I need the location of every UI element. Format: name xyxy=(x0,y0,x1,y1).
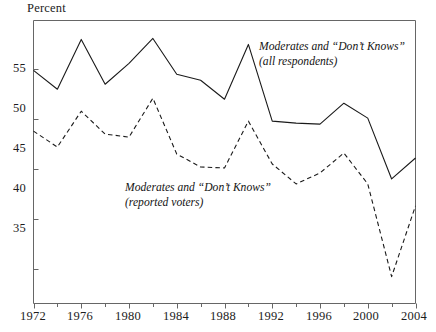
x-tick-label-1992: 1992 xyxy=(251,309,291,324)
x-tick-label-1988: 1988 xyxy=(203,309,243,324)
y-axis-title: Percent xyxy=(27,1,66,16)
x-tick-label-1976: 1976 xyxy=(60,309,100,324)
y-axis-ticks xyxy=(34,70,39,270)
x-tick-label-2004: 2004 xyxy=(394,309,434,324)
legend-all-respondents-line2: (all respondents) xyxy=(259,55,405,70)
legend-reported-voters-line2: (reported voters) xyxy=(125,196,271,211)
x-tick-label-2000: 2000 xyxy=(346,309,386,324)
y-tick-label-35: 35 xyxy=(2,221,26,236)
legend-all-respondents-line1: Moderates and “Don’t Knows” xyxy=(259,40,405,55)
x-tick-label-1980: 1980 xyxy=(108,309,148,324)
chart-container: Percent 55 50 45 40 35 1972 1976 1980 19… xyxy=(0,0,436,332)
legend-reported-voters: Moderates and “Don’t Knows” (reported vo… xyxy=(125,181,271,211)
y-tick-label-50: 50 xyxy=(2,101,26,116)
y-tick-label-45: 45 xyxy=(2,141,26,156)
y-tick-label-40: 40 xyxy=(2,181,26,196)
x-tick-label-1996: 1996 xyxy=(299,309,339,324)
x-tick-label-1984: 1984 xyxy=(156,309,196,324)
x-axis-ticks xyxy=(35,304,417,309)
legend-reported-voters-line1: Moderates and “Don’t Knows” xyxy=(125,181,271,196)
x-tick-label-1972: 1972 xyxy=(13,309,53,324)
legend-all-respondents: Moderates and “Don’t Knows” (all respond… xyxy=(259,40,405,70)
y-tick-label-55: 55 xyxy=(2,61,26,76)
